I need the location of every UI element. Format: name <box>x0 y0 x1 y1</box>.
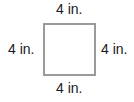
right-side-label: 4 in. <box>101 41 127 57</box>
square-shape <box>43 23 96 76</box>
left-side-label: 4 in. <box>8 41 34 57</box>
bottom-side-label: 4 in. <box>56 80 82 96</box>
top-side-label: 4 in. <box>56 1 82 17</box>
